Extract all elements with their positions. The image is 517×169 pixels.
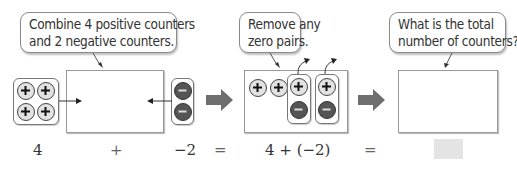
negative-counter	[174, 82, 192, 100]
equation-equals-2: =	[364, 141, 377, 159]
positive-counter-group	[13, 78, 59, 125]
equation-term-1: 4	[33, 141, 43, 159]
equation-expression: 4 + (−2)	[265, 141, 330, 159]
callout-remove: Remove any zero pairs.	[239, 12, 301, 53]
equation-equals-1: =	[214, 141, 227, 159]
remove-arrow-icon	[323, 57, 339, 75]
equation-term-2: −2	[174, 141, 196, 159]
callout-total-line-1: What is the total	[398, 16, 497, 33]
negative-counter-group	[171, 78, 194, 125]
equation-plus: +	[110, 141, 123, 159]
callout-combine-line-2: and 2 negative counters.	[29, 33, 168, 50]
callout-pointer-icon	[90, 52, 110, 72]
negative-counter	[318, 101, 336, 119]
callout-pointer-icon	[442, 52, 462, 72]
callout-remove-line-1: Remove any	[248, 16, 292, 33]
positive-counter	[318, 78, 336, 96]
callout-total-line-2: number of counters?	[398, 33, 497, 50]
remove-arrow-icon	[296, 57, 312, 75]
positive-counter	[37, 103, 55, 121]
callout-total: What is the total number of counters?	[389, 12, 506, 53]
callout-combine: Combine 4 positive counters and 2 negati…	[20, 12, 177, 53]
positive-counter	[37, 82, 55, 100]
thick-arrow-right-icon	[206, 89, 234, 111]
arrow-right-icon	[59, 96, 83, 106]
zero-pair-group	[315, 74, 339, 124]
answer-box	[434, 139, 463, 159]
result-mat	[398, 70, 498, 133]
positive-counter	[17, 82, 35, 100]
arrow-left-icon	[146, 96, 172, 106]
callout-pointer-icon	[268, 52, 288, 72]
positive-counter	[290, 78, 308, 96]
callout-combine-line-1: Combine 4 positive counters	[29, 16, 168, 33]
positive-counter	[270, 79, 288, 97]
negative-counter	[290, 101, 308, 119]
thick-arrow-right-icon	[358, 89, 386, 111]
zero-pair-group	[287, 74, 311, 124]
negative-counter	[174, 103, 192, 121]
positive-counter	[17, 103, 35, 121]
callout-remove-line-2: zero pairs.	[248, 33, 292, 50]
positive-counter	[249, 79, 267, 97]
